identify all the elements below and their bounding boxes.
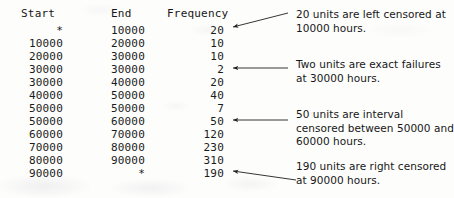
annotation-left-censored: 20 units are left censored at 10000 hour… bbox=[296, 8, 454, 35]
table-cell-frequency: 40 bbox=[0, 90, 224, 102]
column-header-frequency: Frequency bbox=[167, 8, 224, 20]
table-cell-frequency: 310 bbox=[0, 155, 224, 167]
table-cell-frequency: 120 bbox=[0, 129, 224, 141]
scanned-table-figure: Start End Frequency * 10000 20 10000 200… bbox=[0, 0, 454, 198]
table-cell-frequency: 20 bbox=[0, 77, 224, 89]
table-cell-frequency: 10 bbox=[0, 51, 224, 63]
table-cell-frequency: 2 bbox=[0, 64, 224, 76]
arrow-to-left-censored-row bbox=[233, 13, 288, 27]
table-cell-frequency: 20 bbox=[0, 25, 224, 37]
table-cell-frequency: 7 bbox=[0, 103, 224, 115]
table-cell-frequency: 10 bbox=[0, 38, 224, 50]
column-header-end: End bbox=[111, 8, 145, 20]
annotation-right-censored: 190 units are right censored at 90000 ho… bbox=[296, 160, 454, 187]
annotation-exact-failures: Two units are exact failures at 30000 ho… bbox=[296, 58, 454, 85]
column-header-start: Start bbox=[21, 8, 63, 20]
annotation-interval-censored: 50 units are interval censored between 5… bbox=[296, 108, 454, 149]
table-cell-frequency: 50 bbox=[0, 116, 224, 128]
table-cell-frequency: 190 bbox=[0, 168, 224, 180]
table-cell-frequency: 230 bbox=[0, 142, 224, 154]
arrow-to-right-censored-row bbox=[233, 171, 296, 180]
